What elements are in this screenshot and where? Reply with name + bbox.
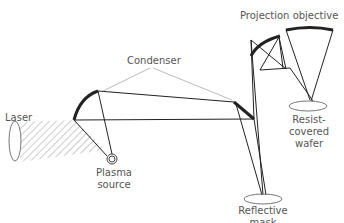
laser-lens-shape bbox=[9, 121, 21, 161]
laser-beam bbox=[20, 120, 105, 162]
mask-shape bbox=[244, 194, 282, 204]
euv-lithography-diagram bbox=[0, 0, 344, 223]
label-laser: Laser bbox=[5, 112, 32, 124]
projection-mirror-2 bbox=[286, 28, 333, 31]
label-condenser: Condenser bbox=[127, 55, 181, 67]
condenser-leaders bbox=[103, 68, 232, 100]
projection-mirror-1 bbox=[251, 36, 280, 56]
condenser-mirror-left bbox=[74, 91, 98, 120]
wafer-shape bbox=[289, 101, 327, 111]
label-plasma-source: Plasmasource bbox=[94, 167, 134, 191]
label-projection-objective: Projection objective bbox=[240, 10, 338, 22]
label-wafer: Resist-coveredwafer bbox=[288, 114, 330, 150]
label-reflective-mask: Reflectivemask bbox=[236, 205, 290, 223]
condenser-mirror-right bbox=[234, 102, 254, 119]
